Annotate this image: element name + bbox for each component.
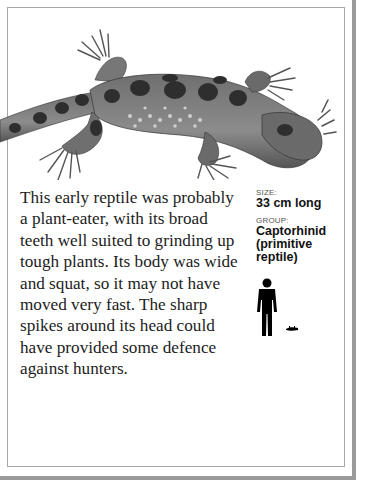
size-value: 33 cm long [256,197,346,210]
reptile-silhouette-icon [286,326,298,331]
human-silhouette-icon [257,279,277,337]
description-text: This early reptile was probably a plant-… [20,187,245,380]
page-shadow-right [352,0,356,480]
page-shadow-bottom [0,476,356,480]
group-value: Captorhinid (primitive reptile) [256,225,346,264]
fact-box: SIZE: 33 cm long GROUP: Captorhinid (pri… [256,188,346,270]
book-page: This early reptile was probably a plant-… [0,0,352,476]
reptile-illustration [0,20,345,180]
scale-comparison [254,278,304,338]
